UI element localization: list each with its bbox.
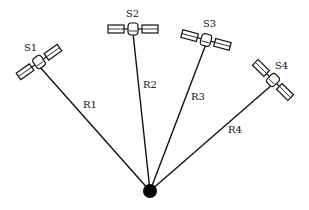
range-line-1 [39, 66, 150, 191]
diagram-canvas: S1S2S3S4R1R2R3R4 [0, 0, 309, 210]
range-line-2 [133, 33, 150, 191]
range-line-3 [150, 44, 206, 191]
range-label: R1 [83, 99, 97, 110]
satellites [15, 23, 295, 102]
receiver-point-icon [143, 184, 157, 198]
satellite-ranging-diagram: S1S2S3S4R1R2R3R4 [0, 0, 309, 210]
satellite-icon [180, 28, 231, 53]
range-lines [39, 33, 273, 191]
range-label: R4 [228, 124, 242, 135]
range-label: R3 [191, 91, 205, 102]
satellite-icon [15, 43, 63, 82]
satellite-label: S3 [203, 18, 216, 29]
range-label: R2 [143, 79, 157, 90]
satellite-label: S2 [126, 8, 139, 19]
satellite-label: S4 [275, 60, 288, 71]
satellite-icon [108, 23, 158, 35]
satellite-label: S1 [24, 42, 37, 53]
range-line-4 [150, 84, 273, 191]
satellite-icon [251, 58, 295, 102]
